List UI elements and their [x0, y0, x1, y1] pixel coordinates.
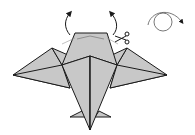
- fold-up-arrow-right: [111, 13, 117, 35]
- body-left: [62, 56, 90, 130]
- origami-diagram: [0, 0, 195, 135]
- owl-model: [13, 33, 167, 130]
- scissors-icon: [115, 32, 129, 44]
- turn-over-icon: [148, 12, 182, 31]
- body-right: [90, 56, 117, 130]
- fold-up-arrow-left: [66, 13, 71, 35]
